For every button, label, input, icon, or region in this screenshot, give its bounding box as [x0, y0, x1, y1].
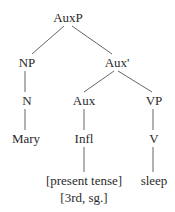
node-vp: VP [146, 93, 163, 108]
edge-auxbar-vp [118, 71, 152, 92]
edge-auxbar-aux [84, 71, 114, 92]
node-v: V [149, 131, 158, 146]
edge-auxp-auxbar [72, 26, 112, 54]
node-auxbar: Aux' [105, 55, 130, 70]
node-np: NP [19, 55, 36, 70]
node-agr: [3rd, sg.] [60, 190, 107, 205]
node-infl: Infl [75, 131, 94, 146]
node-n: N [22, 93, 31, 108]
node-tense: [present tense] [46, 173, 122, 188]
node-sleep: sleep [141, 173, 168, 188]
node-mary: Mary [12, 131, 40, 146]
node-auxp: AuxP [53, 10, 83, 25]
node-aux: Aux [73, 93, 95, 108]
edge-auxp-np [32, 26, 64, 54]
